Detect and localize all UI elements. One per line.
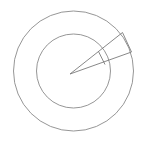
outer-chord: [123, 33, 132, 53]
figure-canvas: [0, 0, 143, 146]
geometry-figure: [0, 0, 143, 146]
upper-ray: [70, 33, 123, 75]
